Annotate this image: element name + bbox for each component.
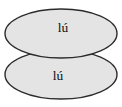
diagram-canvas: lú lú <box>0 0 122 107</box>
top-ellipse-label: lú <box>58 20 69 35</box>
bottom-ellipse-label: lú <box>53 68 64 83</box>
ellipse-diagram: lú lú <box>0 0 122 107</box>
